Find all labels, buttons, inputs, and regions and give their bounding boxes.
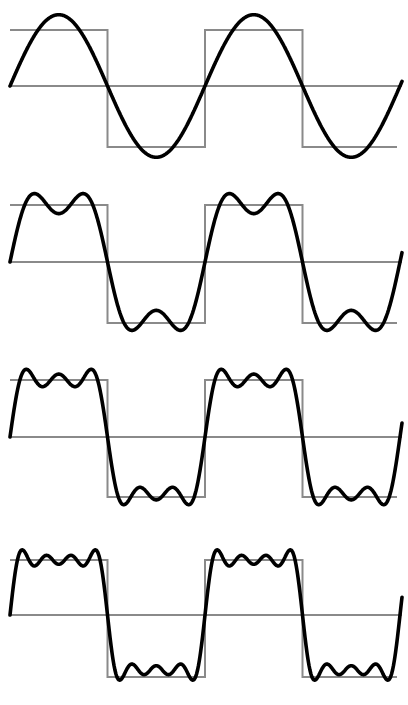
panel-3 [10,369,402,504]
panel-2 [10,194,402,331]
square-wave-1 [10,30,402,147]
panel-4 [10,550,402,680]
panel-1 [10,15,402,158]
fourier-diagram [0,0,408,705]
